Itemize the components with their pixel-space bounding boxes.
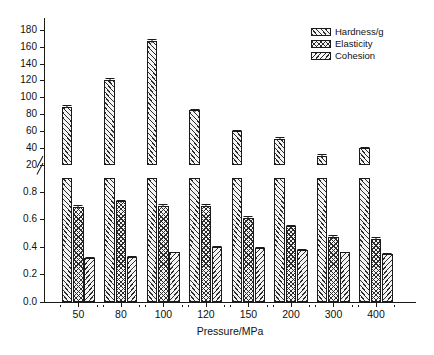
- x-minor-tick-mark: [139, 305, 140, 308]
- bar-elasticity-150: [243, 218, 254, 302]
- bar-elasticity-200: [286, 226, 297, 302]
- bar-hardness-150: [232, 131, 243, 165]
- y-tick-upper-40: 40: [0, 143, 37, 153]
- bar-elasticity-50: [73, 207, 84, 302]
- bar-elasticity-400: [371, 239, 382, 302]
- x-minor-tick-mark: [230, 305, 231, 308]
- y-tick-mark: [40, 219, 44, 220]
- y-tick-mark: [40, 192, 44, 193]
- y-tick-upper-100: 100: [0, 92, 37, 102]
- x-tick-mark: [248, 303, 249, 307]
- y-tick-mark: [40, 148, 44, 149]
- bar-hardness-400: [359, 148, 370, 165]
- y-tick-mark: [40, 97, 44, 98]
- x-tick-mark: [376, 303, 377, 307]
- bar-hardness-50: [62, 107, 73, 165]
- y-tick-lower-0.2: 0.2: [0, 269, 37, 279]
- x-tick-mark: [78, 303, 79, 307]
- y-tick-mark: [40, 30, 44, 31]
- x-minor-tick-mark: [182, 305, 183, 308]
- y-tick-mark: [40, 114, 44, 115]
- bar-hardness-300: [317, 156, 328, 165]
- x-tick-mark: [333, 303, 334, 307]
- x-minor-tick-mark: [309, 305, 310, 308]
- y-tick-lower-0.4: 0.4: [0, 242, 37, 252]
- y-tick-mark: [40, 274, 44, 275]
- legend-swatch-cohesion-icon: [311, 52, 331, 60]
- bar-hardness-200: [274, 139, 285, 165]
- bar-hardness-120: [189, 110, 200, 165]
- bar-elasticity-100: [158, 206, 169, 302]
- y-tick-upper-160: 160: [0, 42, 37, 52]
- x-tick-200: 200: [271, 309, 311, 320]
- x-minor-tick-mark: [224, 305, 225, 308]
- bar-elasticity-300: [328, 237, 339, 302]
- x-axis-line: [44, 302, 416, 303]
- y-tick-lower-0.8: 0.8: [0, 187, 37, 197]
- y-tick-upper-180: 180: [0, 25, 37, 35]
- x-minor-tick-mark: [315, 305, 316, 308]
- x-minor-tick-mark: [358, 305, 359, 308]
- bar-cohesion-400: [382, 254, 393, 302]
- x-tick-mark: [291, 303, 292, 307]
- x-tick-mark: [163, 303, 164, 307]
- x-tick-150: 150: [228, 309, 268, 320]
- legend-item-elasticity: Elasticity: [311, 38, 384, 49]
- bar-cohesion-300: [340, 252, 351, 302]
- y-tick-upper-60: 60: [0, 126, 37, 136]
- x-minor-tick-mark: [394, 305, 395, 308]
- y-tick-upper-80: 80: [0, 109, 37, 119]
- y-tick-mark: [40, 302, 44, 303]
- x-tick-mark: [121, 303, 122, 307]
- x-minor-tick-mark: [267, 305, 268, 308]
- x-tick-100: 100: [143, 309, 183, 320]
- legend-item-hardness: Hardness/g: [311, 26, 384, 37]
- x-tick-mark: [206, 303, 207, 307]
- bar-cohesion-50: [84, 258, 95, 302]
- chart-legend: Hardness/g Elasticity Cohesion: [311, 26, 384, 62]
- bar-cohesion-80: [127, 257, 138, 302]
- x-tick-300: 300: [313, 309, 353, 320]
- legend-item-cohesion: Cohesion: [311, 50, 384, 61]
- x-minor-tick-mark: [188, 305, 189, 308]
- x-minor-tick-mark: [97, 305, 98, 308]
- x-tick-400: 400: [356, 309, 396, 320]
- bar-hardness-lower-100: [147, 178, 158, 302]
- y-tick-mark: [40, 247, 44, 248]
- bar-hardness-100: [147, 41, 158, 165]
- chart-figure: 20406080100120140160180 0.00.20.40.60.8 …: [0, 0, 434, 355]
- x-minor-tick-mark: [60, 305, 61, 308]
- legend-swatch-hardness-icon: [311, 28, 331, 36]
- bar-elasticity-120: [201, 206, 212, 302]
- legend-label-hardness: Hardness/g: [335, 26, 384, 37]
- bar-hardness-lower-150: [232, 178, 243, 302]
- bar-cohesion-150: [255, 248, 266, 302]
- y-axis-line: [44, 18, 45, 303]
- legend-label-elasticity: Elasticity: [335, 38, 372, 49]
- bar-hardness-80: [104, 80, 115, 165]
- y-tick-upper-20: 20: [0, 160, 37, 170]
- bar-hardness-lower-120: [189, 178, 200, 302]
- axis-break-band: [45, 165, 416, 178]
- x-minor-tick-mark: [273, 305, 274, 308]
- bar-elasticity-80: [116, 201, 127, 302]
- y-tick-mark: [40, 64, 44, 65]
- y-tick-mark: [40, 131, 44, 132]
- y-tick-upper-120: 120: [0, 75, 37, 85]
- bar-cohesion-120: [212, 247, 223, 302]
- y-tick-mark: [40, 80, 44, 81]
- bar-hardness-lower-80: [104, 178, 115, 302]
- bar-cohesion-100: [169, 252, 180, 302]
- x-tick-50: 50: [58, 309, 98, 320]
- y-tick-upper-140: 140: [0, 59, 37, 69]
- legend-label-cohesion: Cohesion: [335, 50, 375, 61]
- x-minor-tick-mark: [103, 305, 104, 308]
- bar-hardness-lower-300: [317, 178, 328, 302]
- y-tick-mark: [40, 165, 44, 166]
- y-tick-mark: [40, 47, 44, 48]
- legend-swatch-elasticity-icon: [311, 40, 331, 48]
- x-tick-80: 80: [101, 309, 141, 320]
- bar-hardness-lower-50: [62, 178, 73, 302]
- bar-hardness-lower-400: [359, 178, 370, 302]
- figure-caption: [10, 345, 310, 354]
